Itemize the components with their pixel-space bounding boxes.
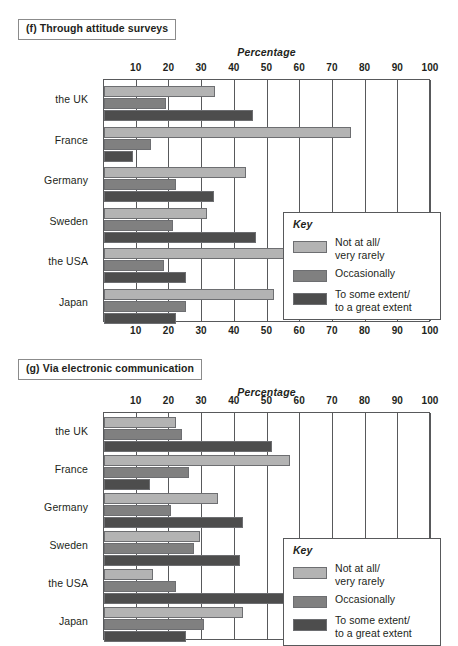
bar (104, 232, 256, 243)
xaxis-tick-label: 100 (422, 325, 439, 336)
bar (104, 631, 186, 642)
xaxis-tick-label: 70 (326, 395, 337, 406)
xaxis-tick-label: 80 (359, 395, 370, 406)
legend-swatch (293, 270, 327, 282)
panel-f-xaxis-ticks-bottom: 102030405060708090100 (103, 325, 430, 339)
bar (104, 593, 303, 604)
xaxis-tick-label: 90 (392, 395, 403, 406)
xaxis-tick-label: 20 (163, 62, 174, 73)
bar (104, 208, 207, 219)
legend-swatch (293, 619, 327, 631)
category-label: Japan (59, 615, 88, 627)
panel-g-category-labels: the UKFranceGermanySwedenthe USAJapan (0, 412, 96, 640)
bar (104, 272, 186, 283)
panel-f-legend: Key Not at all/ very rarelyOccasionallyT… (283, 212, 441, 320)
legend-title: Key (293, 544, 312, 556)
bar (104, 98, 166, 109)
xaxis-tick-label: 20 (163, 395, 174, 406)
bar (104, 543, 194, 554)
xaxis-tick-label: 80 (359, 62, 370, 73)
bar (104, 555, 240, 566)
bar (104, 607, 243, 618)
bar (104, 289, 274, 300)
bar (104, 531, 200, 542)
legend-label: To some extent/ to a great extent (335, 288, 412, 314)
xaxis-tick-label: 40 (228, 395, 239, 406)
xaxis-tick-label: 80 (359, 325, 370, 336)
category-label: Germany (44, 501, 88, 513)
xaxis-tick-label: 100 (422, 62, 439, 73)
bar (104, 441, 272, 452)
bar (104, 313, 176, 324)
bar (104, 569, 153, 580)
xaxis-tick-label: 40 (228, 62, 239, 73)
legend-label: To some extent/ to a great extent (335, 614, 412, 640)
bar (104, 619, 204, 630)
xaxis-tick-label: 30 (195, 395, 206, 406)
bar (104, 191, 214, 202)
bar (104, 581, 176, 592)
panel-f-category-labels: the UKFranceGermanySwedenthe USAJapan (0, 79, 96, 322)
bar (104, 429, 182, 440)
bar (104, 517, 243, 528)
bar (104, 455, 290, 466)
xaxis-tick-label: 60 (294, 62, 305, 73)
bar (104, 179, 176, 190)
category-label: the USA (48, 255, 88, 267)
legend-label: Not at all/ very rarely (335, 562, 385, 588)
bar (104, 467, 189, 478)
category-label: Japan (59, 296, 88, 308)
bar (104, 127, 351, 138)
panel-g-xaxis-ticks-top: 102030405060708090100 (103, 395, 430, 409)
gridline (267, 80, 268, 321)
xaxis-tick-label: 10 (130, 395, 141, 406)
category-label: Sweden (49, 215, 88, 227)
panel-f-title: (f) Through attitude surveys (18, 19, 176, 40)
xaxis-tick-label: 50 (261, 395, 272, 406)
bar (104, 417, 176, 428)
chart-panel-f: (f) Through attitude surveys Percentage … (0, 0, 458, 340)
xaxis-tick-label: 40 (228, 325, 239, 336)
xaxis-tick-label: 60 (294, 325, 305, 336)
xaxis-tick-label: 10 (130, 62, 141, 73)
xaxis-tick-label: 10 (130, 325, 141, 336)
bar (104, 301, 186, 312)
category-label: France (55, 463, 88, 475)
xaxis-tick-label: 70 (326, 62, 337, 73)
legend-swatch (293, 241, 327, 253)
xaxis-tick-label: 50 (261, 62, 272, 73)
category-label: the USA (48, 577, 88, 589)
bar (104, 505, 171, 516)
xaxis-tick-label: 50 (261, 325, 272, 336)
category-label: Sweden (49, 539, 88, 551)
xaxis-tick-label: 70 (326, 325, 337, 336)
xaxis-tick-label: 90 (392, 325, 403, 336)
xaxis-tick-label: 20 (163, 325, 174, 336)
legend-swatch (293, 293, 327, 305)
xaxis-tick-label: 30 (195, 325, 206, 336)
legend-label: Occasionally (335, 267, 395, 280)
xaxis-tick-label: 100 (422, 395, 439, 406)
bar (104, 139, 151, 150)
xaxis-tick-label: 60 (294, 395, 305, 406)
xaxis-tick-label: 30 (195, 62, 206, 73)
legend-label: Not at all/ very rarely (335, 236, 385, 262)
panel-f-xaxis-ticks-top: 102030405060708090100 (103, 62, 430, 76)
category-label: the UK (55, 425, 88, 437)
xaxis-tick-label: 90 (392, 62, 403, 73)
category-label: the UK (55, 93, 88, 105)
bar (104, 493, 218, 504)
category-label: Germany (44, 174, 88, 186)
bar (104, 167, 246, 178)
category-label: France (55, 134, 88, 146)
bar (104, 479, 150, 490)
bar (104, 248, 285, 259)
bar (104, 151, 133, 162)
panel-g-legend: Key Not at all/ very rarelyOccasionallyT… (283, 538, 441, 646)
legend-title: Key (293, 218, 312, 230)
bar (104, 110, 253, 121)
legend-label: Occasionally (335, 593, 395, 606)
legend-swatch (293, 596, 327, 608)
legend-swatch (293, 567, 327, 579)
bar (104, 86, 215, 97)
